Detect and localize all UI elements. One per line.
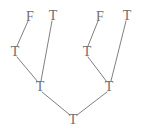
tree-edge — [88, 21, 98, 46]
tree-node-label: T — [66, 113, 80, 127]
tree-edge — [111, 21, 126, 81]
tree-node-label: F — [23, 10, 37, 24]
tree-node-label: T — [46, 9, 60, 23]
binary-tree-diagram: FTFTTTTTT — [0, 0, 146, 137]
tree-node-label: T — [8, 45, 22, 59]
tree-edge — [17, 21, 28, 46]
tree-edge — [17, 57, 38, 82]
tree-node-label: T — [102, 80, 116, 94]
tree-node-label: T — [80, 45, 94, 59]
tree-node-label: T — [33, 80, 47, 94]
tree-edge — [42, 92, 70, 115]
tree-node-label: F — [93, 10, 107, 24]
edges-group — [17, 21, 126, 115]
tree-edge — [41, 21, 52, 81]
tree-edge — [77, 92, 107, 115]
tree-node-label: T — [120, 9, 134, 23]
